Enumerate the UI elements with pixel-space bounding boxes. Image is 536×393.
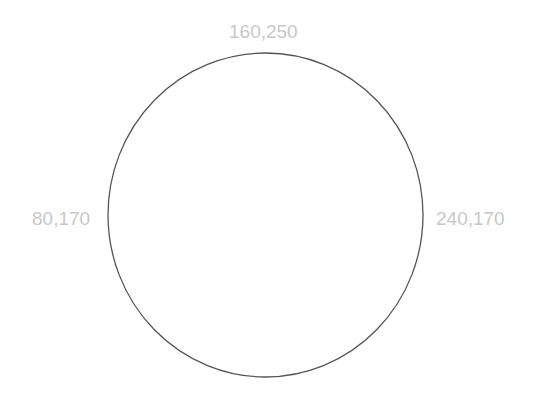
circle-canvas: [0, 0, 536, 393]
circle-shape: [108, 53, 423, 377]
left-point-label: 80,170: [32, 208, 90, 230]
top-point-label: 160,250: [229, 21, 298, 43]
right-point-label: 240,170: [436, 208, 505, 230]
